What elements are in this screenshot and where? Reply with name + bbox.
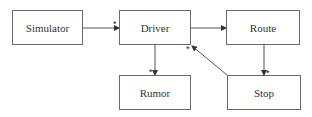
node-driver[interactable]: Driver — [119, 10, 191, 45]
edge-stop-driver — [192, 46, 227, 75]
node-simulator[interactable]: Simulator — [12, 10, 83, 45]
multiplicity-stop-driver: * — [186, 45, 190, 54]
node-route[interactable]: Route — [226, 10, 300, 45]
node-label: Driver — [141, 22, 170, 34]
multiplicity-route-stop: * — [266, 69, 270, 78]
multiplicity-simulator-driver: * — [113, 20, 117, 29]
node-label: Rumor — [140, 87, 171, 99]
multiplicity-driver-rumor: * — [149, 68, 153, 77]
node-label: Simulator — [26, 22, 69, 34]
node-rumor[interactable]: Rumor — [119, 75, 191, 110]
node-stop[interactable]: Stop — [227, 75, 301, 110]
node-label: Route — [250, 22, 276, 34]
node-label: Stop — [254, 87, 274, 99]
